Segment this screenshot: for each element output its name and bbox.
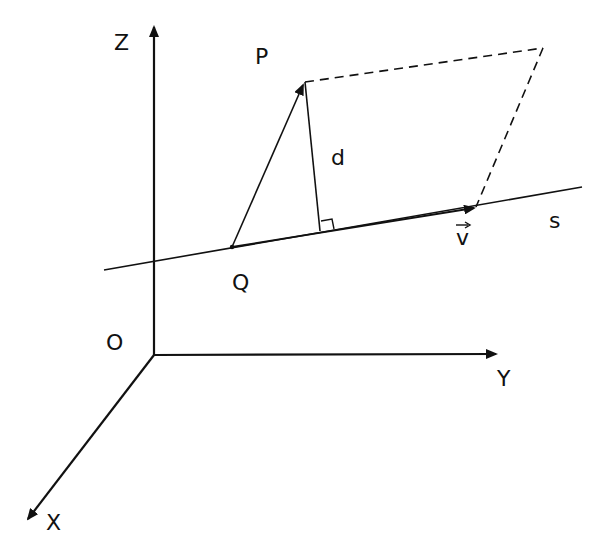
parallelogram-right-edge (476, 48, 543, 207)
origin-label: O (106, 330, 123, 355)
vector-v-letter: v (456, 225, 469, 250)
distance-point-line-diagram: Z Y X O P Q d s v (0, 0, 600, 547)
point-q-label: Q (232, 270, 249, 295)
point-p-label: P (255, 44, 268, 69)
point-q (230, 245, 234, 249)
distance-d-label: d (331, 145, 345, 170)
y-axis-label: Y (496, 366, 511, 391)
parallelogram (305, 48, 543, 207)
x-axis-label: X (46, 510, 61, 535)
vector-qp (232, 85, 303, 247)
x-axis (28, 355, 154, 519)
right-angle-marker (321, 219, 334, 229)
line-s-label: s (549, 208, 560, 233)
y-axis (154, 354, 496, 355)
coordinate-axes (28, 27, 496, 519)
parallelogram-top-edge (305, 48, 543, 82)
direction-vector-v (232, 208, 474, 247)
z-axis-label: Z (114, 30, 129, 55)
vector-v-label: v (456, 222, 470, 250)
perpendicular-d (305, 82, 320, 231)
